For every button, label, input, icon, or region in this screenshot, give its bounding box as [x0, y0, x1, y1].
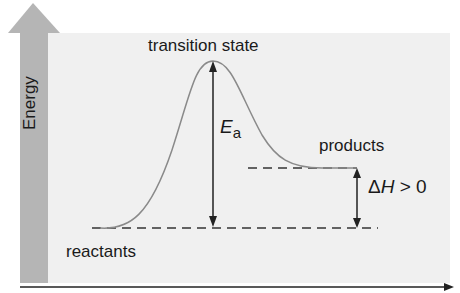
enthalpy-symbol: H — [381, 176, 395, 197]
activation-energy-label: Ea — [220, 116, 241, 138]
reaction-progress-axis — [20, 283, 454, 291]
delta-symbol: Δ — [368, 176, 381, 197]
activation-energy-symbol: E — [220, 116, 233, 137]
reactants-label: reactants — [66, 242, 136, 262]
enthalpy-change-label: ΔH > 0 — [368, 176, 427, 198]
enthalpy-relation: > 0 — [394, 176, 426, 197]
energy-axis-label: Energy — [20, 60, 40, 130]
products-label: products — [319, 136, 384, 156]
transition-state-label: transition state — [148, 36, 259, 56]
activation-energy-subscript: a — [233, 124, 241, 141]
